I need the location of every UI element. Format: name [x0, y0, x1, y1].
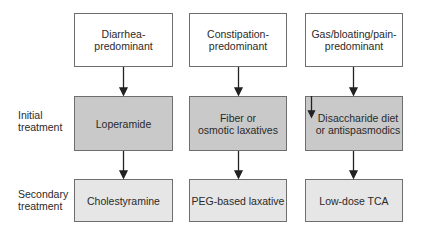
- arrowhead-icon: [120, 88, 127, 95]
- arrowhead-icon: [350, 171, 357, 178]
- arrowhead-icon: [120, 171, 127, 178]
- arrowhead-icon: [235, 171, 242, 178]
- flow-arrows: [0, 0, 423, 234]
- arrowhead-icon: [350, 88, 357, 95]
- arrowhead-icon: [309, 111, 315, 117]
- arrowhead-icon: [235, 88, 242, 95]
